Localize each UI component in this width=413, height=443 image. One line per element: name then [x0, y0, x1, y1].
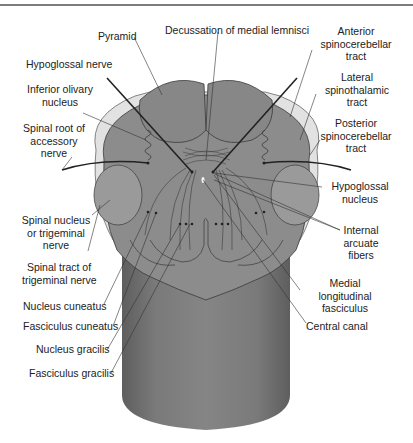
- label-posterior-spinocerebellar-tract: Posterior spinocerebellar tract: [310, 117, 402, 155]
- label-line: tract: [310, 142, 402, 155]
- label-medial-longitudinal-fasciculus: Medial longitudinal fasciculus: [312, 277, 378, 315]
- label-line: Hypoglossal: [326, 180, 394, 193]
- label-line: accessory: [20, 135, 88, 148]
- label-line: Lateral: [316, 71, 398, 84]
- label-line: nucleus: [26, 96, 94, 109]
- label-line: or trigeminal: [20, 227, 92, 240]
- label-line: nucleus: [326, 193, 394, 206]
- label-anterior-spinocerebellar-tract: Anterior spinocerebellar tract: [311, 25, 401, 63]
- label-line: Posterior: [310, 117, 402, 130]
- label-line: tract: [311, 50, 401, 63]
- label-hypoglossal-nerve: Hypoglossal nerve: [26, 58, 112, 71]
- label-spinal-tract-trigeminal-nerve: Spinal tract of trigeminal nerve: [22, 261, 96, 286]
- label-line: Medial: [312, 277, 378, 290]
- label-line: Spinal nucleus: [20, 214, 92, 227]
- label-line: nerve: [20, 147, 88, 160]
- label-line: Spinal root of: [20, 122, 88, 135]
- label-decussation-medial-lemnisci: Decussation of medial lemnisci: [165, 24, 309, 37]
- label-line: arcuate: [338, 237, 384, 250]
- label-central-canal: Central canal: [306, 320, 368, 333]
- label-fasciculus-gracilis: Fasciculus gracilis: [29, 367, 114, 380]
- label-nucleus-cuneatus: Nucleus cuneatus: [23, 300, 106, 313]
- label-line: tract: [316, 96, 398, 109]
- label-line: Internal: [338, 224, 384, 237]
- label-line: Inferior olivary: [26, 83, 94, 96]
- label-line: spinocerebellar: [311, 38, 401, 51]
- label-hypoglossal-nucleus: Hypoglossal nucleus: [326, 180, 394, 205]
- label-line: fasciculus: [312, 302, 378, 315]
- label-spinal-nucleus-trigeminal-nerve: Spinal nucleus or trigeminal nerve: [20, 214, 92, 252]
- label-line: nerve: [20, 239, 92, 252]
- label-line: Spinal tract of: [22, 261, 96, 274]
- label-nucleus-gracilis: Nucleus gracilis: [36, 343, 110, 356]
- label-internal-arcuate-fibers: Internal arcuate fibers: [338, 224, 384, 262]
- label-line: spinocerebellar: [310, 130, 402, 143]
- label-lateral-spinothalamic-tract: Lateral spinothalamic tract: [316, 71, 398, 109]
- label-line: trigeminal nerve: [22, 274, 96, 287]
- label-line: fibers: [338, 249, 384, 262]
- label-fasciculus-cuneatus: Fasciculus cuneatus: [23, 320, 118, 333]
- label-spinal-root-accessory-nerve: Spinal root of accessory nerve: [20, 122, 88, 160]
- label-inferior-olivary-nucleus: Inferior olivary nucleus: [26, 83, 94, 108]
- label-line: spinothalamic: [316, 84, 398, 97]
- label-line: Anterior: [311, 25, 401, 38]
- label-pyramid: Pyramid: [98, 30, 137, 43]
- label-line: longitudinal: [312, 290, 378, 303]
